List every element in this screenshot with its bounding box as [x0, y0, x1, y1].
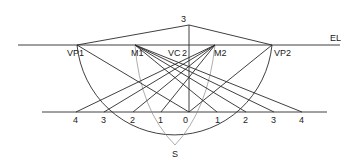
top-to-vp2-line: [189, 25, 272, 45]
perspective-diagram: 3 EL VP1 M1 VC 2 M2 VP2 S 4 3 2 1 0 1 2 …: [0, 0, 361, 167]
ground-label: 2: [130, 115, 135, 125]
measuring-arc-m2: [175, 45, 215, 145]
m2-fan-lines: [76, 45, 215, 112]
ground-label: 4: [299, 115, 304, 125]
label-top-3: 3: [181, 14, 186, 24]
label-el: EL: [330, 33, 341, 43]
label-m2: M2: [214, 48, 227, 58]
label-m1: M1: [131, 48, 144, 58]
ground-label: 1: [215, 115, 220, 125]
ground-label: 2: [243, 115, 248, 125]
label-vc: VC: [168, 48, 181, 58]
vp2-to-ground-line: [189, 45, 272, 112]
ground-label: 1: [158, 115, 163, 125]
measuring-arc-m1: [135, 45, 175, 145]
ground-label: 0: [183, 115, 188, 125]
ground-label: 4: [73, 115, 78, 125]
ground-label: 3: [101, 115, 106, 125]
label-vp2: VP2: [274, 48, 291, 58]
label-s: S: [172, 149, 178, 159]
label-vc-num: 2: [182, 48, 187, 58]
top-to-vp1-line: [77, 25, 189, 45]
label-vp1: VP1: [67, 48, 84, 58]
ground-label: 3: [271, 115, 276, 125]
